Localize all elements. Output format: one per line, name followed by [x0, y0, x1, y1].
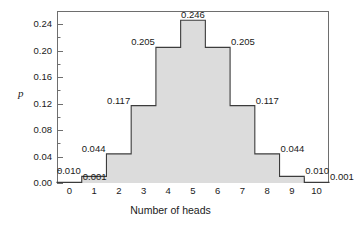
bar-value-label: 0.010	[305, 166, 329, 176]
bar-value-label: 0.044	[82, 143, 106, 153]
bar-value-label: 0.001	[330, 172, 354, 182]
bar-value-label: 0.205	[231, 37, 255, 47]
bar-value-label: 0.117	[256, 95, 279, 105]
y-axis-label: p	[18, 88, 24, 99]
bar-value-label: 0.010	[57, 166, 81, 176]
y-tick-label: 0.24	[18, 19, 52, 29]
histogram-fill	[57, 20, 329, 183]
bar-value-label: 0.117	[107, 95, 130, 105]
y-tick-label: 0.20	[18, 46, 52, 56]
x-tick-label: 3	[141, 186, 146, 196]
y-tick-label: 0.00	[18, 178, 52, 188]
x-tick-label: 0	[67, 186, 72, 196]
y-tick-label: 0.04	[18, 152, 52, 162]
x-tick-label: 7	[240, 186, 245, 196]
x-tick-label: 9	[289, 186, 294, 196]
x-tick-label: 6	[215, 186, 220, 196]
bar-value-label: 0.044	[281, 143, 305, 153]
y-tick-label: 0.12	[18, 99, 52, 109]
x-tick-label: 8	[265, 186, 270, 196]
x-tick-label: 5	[190, 186, 195, 196]
bar-value-label: 0.205	[131, 37, 155, 47]
x-tick-label: 1	[91, 186, 96, 196]
x-axis-label: Number of heads	[0, 205, 341, 216]
bar-value-label: 0.246	[181, 10, 205, 20]
x-tick-label: 4	[166, 186, 171, 196]
y-tick-label: 0.08	[18, 125, 52, 135]
bar-value-label: 0.001	[83, 172, 107, 182]
y-tick-label: 0.16	[18, 72, 52, 82]
x-tick-label: 2	[116, 186, 121, 196]
x-tick-label: 10	[311, 186, 322, 196]
